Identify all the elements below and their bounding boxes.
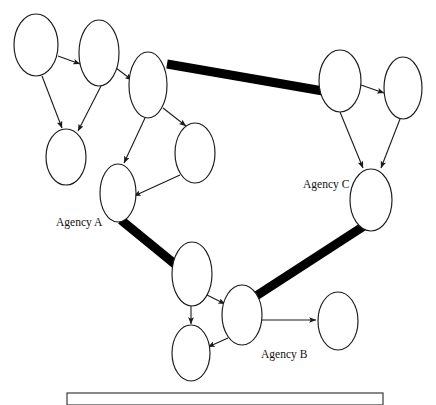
- frame-layer: [67, 393, 383, 405]
- edge-n10-n11: [207, 295, 225, 304]
- node-top-second[interactable]: [79, 20, 119, 86]
- node-agency-c[interactable]: [350, 169, 392, 231]
- thick-edge-n11-n9: [256, 226, 364, 296]
- label-agency-b: Agency B: [261, 348, 308, 361]
- edge-n1-n4: [42, 76, 62, 128]
- label-agency-a: Agency A: [56, 216, 103, 229]
- edge-n6-n5: [134, 175, 180, 196]
- node-lower-mid-upper[interactable]: [172, 242, 212, 306]
- label-agency-c: Agency C: [303, 178, 350, 191]
- node-right-top-far[interactable]: [384, 57, 422, 119]
- node-right-upper[interactable]: [319, 50, 361, 112]
- edge-n7-n8: [361, 85, 384, 93]
- edge-n8-n9: [381, 119, 400, 168]
- node-lower-left[interactable]: [172, 325, 210, 381]
- diagram-svg: Agency AAgency BAgency C: [0, 0, 436, 405]
- edge-n1-n2: [58, 56, 80, 64]
- edge-n11-n12: [208, 338, 228, 347]
- edge-n3-n6: [163, 108, 186, 126]
- node-top-left[interactable]: [14, 14, 58, 76]
- diagram-canvas: Agency AAgency BAgency C: [0, 0, 436, 405]
- thick-edge-n5-n10: [121, 220, 176, 265]
- node-lower-right[interactable]: [318, 292, 358, 350]
- node-agency-a[interactable]: [100, 164, 136, 222]
- node-top-third[interactable]: [129, 52, 167, 118]
- node-agency-b[interactable]: [222, 285, 262, 345]
- bottom-frame: [67, 393, 383, 405]
- node-mid-right[interactable]: [175, 123, 215, 183]
- edge-n7-n9: [340, 112, 363, 168]
- edge-n3-n5: [124, 118, 145, 163]
- thick-edge-n3-n7: [167, 64, 323, 91]
- edge-n2-n4: [78, 86, 101, 131]
- node-left-lower[interactable]: [46, 129, 86, 185]
